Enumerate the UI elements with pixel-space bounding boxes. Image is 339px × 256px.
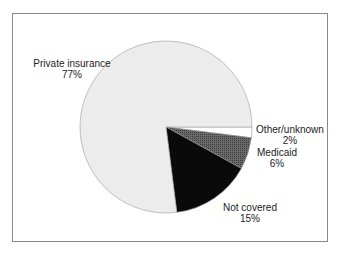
label-not-covered: Not covered 15% <box>220 202 280 224</box>
label-private-insurance: Private insurance 77% <box>22 58 122 80</box>
label-medicaid: Medicaid 6% <box>252 147 302 169</box>
slice-name: Private insurance <box>22 58 122 69</box>
slice-percent: 77% <box>22 69 122 80</box>
slice-name: Other/unknown <box>255 124 325 135</box>
slice-name: Not covered <box>220 202 280 213</box>
label-other-unknown: Other/unknown 2% <box>255 124 325 146</box>
slice-name: Medicaid <box>252 147 302 158</box>
slice-percent: 2% <box>255 135 325 146</box>
slice-percent: 6% <box>252 158 302 169</box>
slice-percent: 15% <box>220 213 280 224</box>
